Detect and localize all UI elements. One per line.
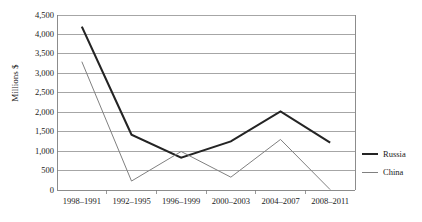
y-tick-label: 3,500 <box>20 49 54 58</box>
x-tick-label: 2004–2007 <box>261 196 299 206</box>
y-tick-label: 0 <box>20 186 54 195</box>
y-tick-label: 3,000 <box>20 69 54 78</box>
y-tick-label: 2,500 <box>20 88 54 97</box>
y-tick-label: 4,500 <box>20 11 54 20</box>
legend-line-swatch-icon <box>362 153 378 155</box>
x-tick-label: 1996–1999 <box>162 196 200 206</box>
line-chart: Millions $ 05001,0001,5002,0002,5003,000… <box>0 0 422 222</box>
x-tick-label: 2008–2011 <box>311 196 349 206</box>
x-tick-label: 2000–2003 <box>212 196 250 206</box>
y-tick-label: 4,000 <box>20 30 54 39</box>
series-line-russia <box>82 27 330 158</box>
legend-line-swatch-icon <box>362 172 378 173</box>
y-tick-label: 2,000 <box>20 108 54 117</box>
legend-item-china[interactable]: China <box>362 164 422 180</box>
x-tick-label: 1998–1991 <box>63 196 101 206</box>
x-axis-tick-labels: 1998–19911992–19951996–19992000–20032004… <box>57 196 355 212</box>
y-axis-tick-labels: 05001,0001,5002,0002,5003,0003,5004,0004… <box>18 0 54 222</box>
legend-label: China <box>383 168 403 177</box>
y-tick-label: 1,000 <box>20 147 54 156</box>
plot-svg <box>57 15 355 190</box>
y-tick-label: 1,500 <box>20 127 54 136</box>
legend-item-russia[interactable]: Russia <box>362 146 422 162</box>
plot-area <box>57 15 355 190</box>
legend-label: Russia <box>383 150 406 159</box>
x-tick-label: 1992–1995 <box>112 196 150 206</box>
y-tick-label: 500 <box>20 166 54 175</box>
chart-legend: RussiaChina <box>362 146 422 182</box>
